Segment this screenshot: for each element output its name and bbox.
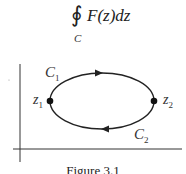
label-z1-sub: 1 [38,100,43,110]
label-z1: z1 [33,92,43,110]
arrow-left-icon [101,126,109,133]
label-c1: C1 [45,64,60,83]
label-c2: C2 [134,126,149,145]
label-z2-sub: 2 [168,100,173,110]
label-z2: z2 [163,92,173,110]
label-c2-sub: 2 [144,135,149,145]
speck [8,79,9,80]
point-z1 [47,98,54,105]
figure-caption: Figure 3.1 [0,163,186,174]
point-z2 [151,98,158,105]
contour-diagram [0,0,186,174]
label-c1-sub: 1 [55,73,60,83]
label-c1-main: C [45,64,55,80]
arrow-right-icon [95,70,103,77]
label-c2-main: C [134,126,144,142]
contour-ellipse [50,73,154,129]
